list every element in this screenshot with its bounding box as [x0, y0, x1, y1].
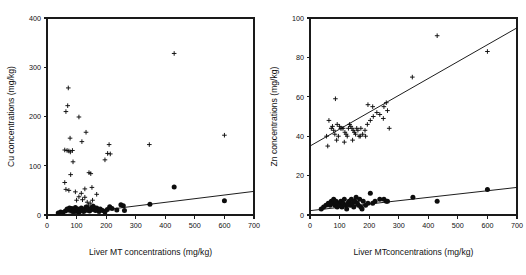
data-point	[485, 187, 490, 192]
data-point	[485, 49, 490, 54]
data-point	[74, 198, 79, 203]
x-tick-label: 300	[130, 221, 142, 230]
data-point	[351, 205, 356, 210]
data-point	[122, 208, 127, 213]
data-point	[365, 201, 370, 206]
data-point	[114, 208, 119, 213]
data-point	[77, 115, 82, 120]
data-point	[80, 197, 85, 202]
y-axis-label: Cu concentrations (mg/kg)	[6, 66, 16, 167]
data-point	[79, 191, 84, 196]
data-point	[147, 202, 152, 207]
data-point	[121, 203, 126, 208]
y-tick-label: 40	[296, 132, 304, 141]
data-point	[172, 51, 177, 56]
x-tick-label: 0	[308, 221, 312, 230]
data-point	[105, 151, 110, 156]
x-tick-label: 100	[71, 221, 83, 230]
y-tick-label: 80	[296, 53, 304, 62]
data-point	[350, 138, 355, 143]
data-point	[83, 195, 88, 200]
plot-area-cu: 01002003004005006007000100200300400Liver…	[0, 0, 263, 275]
data-point	[62, 148, 67, 153]
data-point	[83, 187, 88, 192]
x-tick-label: 400	[422, 221, 434, 230]
y-tick-label: 100	[29, 162, 41, 171]
data-point	[333, 96, 338, 101]
data-point	[222, 133, 227, 138]
series-cross	[62, 51, 226, 208]
data-point	[222, 198, 227, 203]
data-point	[172, 184, 177, 189]
data-point	[381, 116, 386, 121]
y-tick-label: 400	[29, 14, 41, 23]
data-point	[327, 118, 332, 123]
data-point	[66, 86, 71, 91]
x-axis-label: Liver MTconcentrations (mg/kg)	[354, 247, 474, 257]
data-point	[94, 192, 99, 197]
data-point	[368, 118, 373, 123]
x-tick-label: 500	[189, 221, 201, 230]
data-point	[385, 108, 390, 113]
data-point	[368, 191, 373, 196]
x-tick-label: 400	[159, 221, 171, 230]
data-point	[385, 199, 390, 204]
data-point	[366, 102, 371, 107]
data-point	[325, 144, 330, 149]
data-point	[80, 139, 85, 144]
data-point	[342, 197, 347, 202]
plot-frame	[310, 18, 517, 215]
x-tick-label: 600	[218, 221, 230, 230]
data-point	[65, 103, 70, 108]
data-point	[410, 75, 415, 80]
data-point	[365, 122, 370, 127]
x-axis-label: Liver MT concentrations (mg/kg)	[89, 247, 212, 257]
data-point	[363, 128, 368, 133]
y-tick-label: 0	[37, 211, 41, 220]
data-point	[73, 190, 78, 195]
data-point	[77, 194, 82, 199]
data-point	[64, 109, 69, 114]
data-point	[435, 33, 440, 38]
y-tick-label: 0	[300, 211, 304, 220]
data-point	[334, 138, 339, 143]
x-tick-label: 600	[481, 221, 493, 230]
x-tick-label: 300	[393, 221, 405, 230]
data-point	[387, 126, 392, 131]
data-point	[435, 199, 440, 204]
plot-frame	[47, 18, 254, 215]
data-layer	[310, 28, 517, 212]
y-tick-label: 20	[296, 171, 304, 180]
y-tick-label: 100	[292, 14, 304, 23]
data-point	[62, 180, 67, 185]
x-tick-label: 100	[334, 221, 346, 230]
data-point	[360, 207, 365, 212]
data-point	[90, 198, 95, 203]
x-tick-label: 500	[452, 221, 464, 230]
data-point	[68, 172, 73, 177]
plot-area-zn: 0100200300400500600700020406080100Liver …	[263, 0, 526, 275]
data-point	[371, 114, 376, 119]
data-point	[90, 185, 95, 190]
data-point	[84, 130, 89, 135]
x-tick-label: 200	[363, 221, 375, 230]
y-axis-label: Zn concentrations (mg/kg)	[269, 66, 279, 166]
data-point	[410, 195, 415, 200]
data-point	[107, 142, 112, 147]
data-layer	[47, 51, 254, 217]
y-tick-label: 300	[29, 63, 41, 72]
data-point	[64, 187, 69, 192]
data-point	[67, 188, 72, 193]
x-tick-label: 700	[248, 221, 260, 230]
data-point	[370, 104, 375, 109]
data-point	[147, 142, 152, 147]
data-point	[110, 206, 115, 211]
data-point	[342, 140, 347, 145]
y-tick-label: 60	[296, 93, 304, 102]
panel-cu-concentrations: 01002003004005006007000100200300400Liver…	[0, 0, 263, 275]
y-tick-label: 200	[29, 112, 41, 121]
data-point	[373, 199, 378, 204]
data-point	[71, 160, 76, 165]
x-tick-label: 0	[45, 221, 49, 230]
data-point	[68, 136, 73, 141]
